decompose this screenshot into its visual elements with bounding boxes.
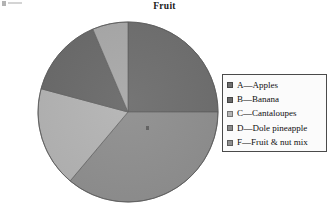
legend-label-c: C—Cantaloupes [237, 109, 297, 118]
legend-label-b: B—Banana [237, 95, 279, 104]
legend-swatch-a-icon [227, 82, 233, 88]
chart-legend: A—Apples B—Banana C—Cantaloupes D—Dole p… [222, 74, 327, 152]
chart-title: Fruit [0, 1, 329, 11]
pie-outline [38, 22, 218, 202]
legend-item-d[interactable]: D—Dole pineapple [227, 121, 323, 135]
legend-swatch-d-icon [227, 125, 233, 131]
legend-swatch-b-icon [227, 97, 233, 103]
legend-item-b[interactable]: B—Banana [227, 92, 323, 106]
pie-speck-artifact [146, 126, 149, 130]
legend-label-d: D—Dole pineapple [237, 124, 307, 133]
pie-chart [37, 18, 219, 206]
legend-item-a[interactable]: A—Apples [227, 78, 323, 92]
legend-item-c[interactable]: C—Cantaloupes [227, 107, 323, 121]
legend-label-a: A—Apples [237, 81, 278, 90]
pie-chart-svg [37, 18, 219, 206]
chart-canvas: Fruit A—Apples B—Banana C—Cantaloupes [0, 0, 329, 212]
legend-label-f: F—Fruit & nut mix [237, 138, 308, 147]
legend-swatch-c-icon [227, 111, 233, 117]
legend-swatch-f-icon [227, 140, 233, 146]
legend-item-f[interactable]: F—Fruit & nut mix [227, 136, 323, 150]
